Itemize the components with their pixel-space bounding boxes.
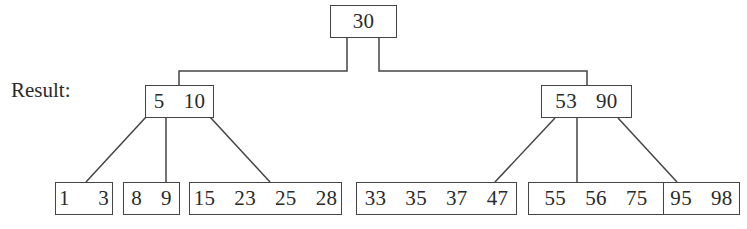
edge-right-leaf6 [618, 118, 677, 182]
root-node: 30 [330, 5, 397, 38]
leaf-node-5: 55 56 75 [528, 182, 664, 215]
edge-left-leaf3 [210, 117, 270, 182]
leaf-node-4: 33 35 37 47 [356, 182, 517, 215]
leaf-node-1: 1 3 [55, 182, 113, 215]
leaf-node-3: 15 23 25 28 [189, 182, 342, 215]
edge-left-leaf1 [86, 117, 146, 182]
internal-node-left: 5 10 [145, 85, 214, 118]
edge-root-right [379, 38, 587, 85]
internal-node-right: 53 90 [541, 85, 632, 118]
leaf-node-6: 95 98 [663, 182, 740, 215]
leaf-node-2: 8 9 [123, 182, 180, 215]
edge-root-left [179, 38, 347, 85]
edge-right-leaf4 [495, 118, 555, 182]
